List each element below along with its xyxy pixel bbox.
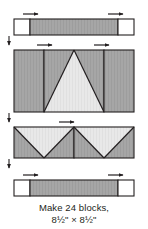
caption-line-make-blocks: Make 24 blocks, bbox=[0, 202, 148, 214]
corner-square-left bbox=[14, 19, 30, 35]
lower-center-row bbox=[14, 122, 134, 158]
corner-square-right bbox=[118, 180, 134, 196]
sashing-strip-top bbox=[30, 19, 118, 35]
inverted-geese-unit-left bbox=[14, 127, 74, 158]
assembly-diagram-canvas bbox=[0, 0, 148, 229]
corner-square-left bbox=[14, 180, 30, 196]
corner-square-right bbox=[118, 19, 134, 35]
sashing-strip-bottom bbox=[30, 180, 118, 196]
quilt-block-assembly-diagram: Make 24 blocks, 8½" × 8½" bbox=[0, 0, 148, 229]
upper-center-row bbox=[14, 45, 134, 112]
bottom-sashing-row bbox=[14, 175, 134, 196]
top-sashing-row bbox=[14, 14, 134, 35]
side-rectangle-right bbox=[104, 50, 134, 112]
side-rectangle-left bbox=[14, 50, 44, 112]
diagram-caption: Make 24 blocks, 8½" × 8½" bbox=[0, 202, 148, 226]
caption-line-block-size: 8½" × 8½" bbox=[0, 214, 148, 226]
center-peak-triangle-unit bbox=[44, 50, 104, 112]
inverted-geese-unit-right bbox=[74, 127, 134, 158]
